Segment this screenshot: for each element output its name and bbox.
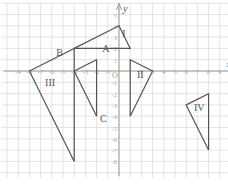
- y-tick-label: 3: [114, 34, 117, 41]
- y-tick-label: -2: [112, 91, 117, 98]
- shape-label-a: A: [102, 43, 110, 54]
- y-tick-label: -8: [112, 158, 117, 165]
- x-tick-label: -3: [82, 68, 88, 76]
- x-tick-label: -1: [105, 68, 111, 76]
- x-tick-label: -5: [60, 68, 66, 76]
- y-axis-label: y: [122, 3, 128, 14]
- shape-label-iii: III: [45, 77, 55, 88]
- y-tick-label: -6: [112, 136, 118, 143]
- point-label-c: C: [100, 113, 107, 124]
- origin-label: O: [112, 71, 118, 80]
- y-tick-label: -3: [112, 102, 117, 109]
- x-tick-label: 4: [162, 68, 166, 76]
- y-tick-label: -4: [112, 113, 118, 120]
- y-tick-label: 5: [114, 12, 117, 19]
- y-tick-label: -5: [112, 125, 117, 132]
- x-tick-label: 9: [218, 68, 222, 76]
- shape-labels: IAIIIIIIVBC: [45, 28, 205, 124]
- shape-label-ii: II: [137, 69, 144, 80]
- y-tick-label: 1: [114, 57, 117, 64]
- x-axis-label: x: [226, 59, 228, 69]
- y-tick-label: -1: [112, 79, 117, 86]
- coordinate-plane: yx -9-8-7-6-5-4-3-2-112345678954321-1-2-…: [0, 0, 228, 185]
- y-tick-label: -7: [112, 147, 118, 154]
- shape-label-i: I: [122, 28, 125, 39]
- x-tick-label: 5: [173, 68, 177, 76]
- point-label-b: B: [56, 47, 63, 58]
- x-tick-label: -9: [15, 68, 21, 76]
- shape-label-iv: IV: [194, 102, 205, 113]
- x-tick-label: 6: [184, 68, 188, 76]
- x-tick-label: 7: [196, 68, 200, 76]
- x-tick-label: 8: [207, 68, 211, 76]
- x-tick-label: -6: [49, 68, 55, 76]
- x-tick-label: -7: [38, 68, 44, 76]
